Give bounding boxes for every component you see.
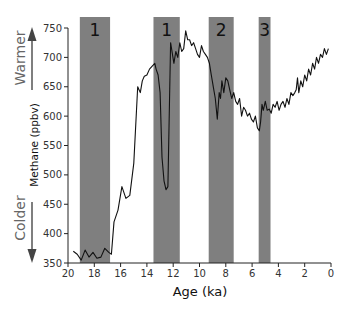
- y-tick-label: 750: [43, 23, 62, 34]
- y-tick-label: 600: [43, 111, 62, 122]
- x-axis: 20181614121086420: [62, 263, 335, 279]
- y-tick-label: 450: [43, 199, 62, 210]
- y-tick-label: 500: [43, 169, 62, 180]
- x-tick-label: 8: [223, 268, 229, 279]
- band-label: 1: [90, 20, 101, 40]
- down-arrow-icon: [28, 249, 37, 263]
- x-tick-label: 18: [88, 268, 101, 279]
- colder-label: Colder: [12, 195, 28, 241]
- shaded-band-4: [259, 17, 271, 263]
- methane-series-line: [73, 31, 328, 260]
- y-tick-label: 400: [43, 228, 62, 239]
- shaded-band-1: [80, 17, 110, 263]
- warmer-annotation: Warmer: [12, 27, 37, 90]
- x-tick-label: 12: [167, 268, 180, 279]
- y-axis: 350400450500550600650700750: [43, 23, 68, 269]
- x-axis-title: Age (ka): [173, 284, 228, 299]
- x-tick-label: 6: [249, 268, 255, 279]
- x-tick-label: 4: [275, 268, 281, 279]
- x-tick-label: 10: [193, 268, 206, 279]
- y-tick-label: 650: [43, 81, 62, 92]
- x-tick-label: 20: [62, 268, 75, 279]
- y-tick-label: 550: [43, 140, 62, 151]
- y-axis-title: Methane (ppbv): [28, 103, 40, 187]
- band-label: 1: [161, 20, 172, 40]
- shaded-band-3: [209, 17, 234, 263]
- band-label: 2: [216, 20, 227, 40]
- x-tick-label: 0: [328, 268, 334, 279]
- x-tick-label: 2: [302, 268, 308, 279]
- band-label: 3: [259, 20, 270, 40]
- up-arrow-icon: [28, 27, 37, 41]
- colder-annotation: Colder: [12, 195, 37, 263]
- warmer-label: Warmer: [12, 30, 28, 85]
- y-tick-label: 350: [43, 258, 62, 269]
- methane-chart: 1123 350400450500550600650700750 2018161…: [0, 0, 348, 310]
- x-tick-label: 14: [141, 268, 154, 279]
- y-tick-label: 700: [43, 52, 62, 63]
- x-tick-label: 16: [114, 268, 127, 279]
